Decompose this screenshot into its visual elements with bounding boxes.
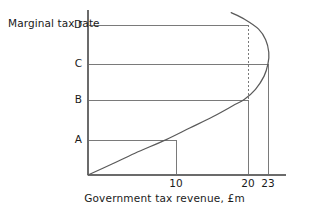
x-tick-label-23: 23 (256, 177, 280, 189)
y-tick-label-d: D (68, 18, 82, 30)
x-axis-title: Government tax revenue, £m (0, 192, 329, 204)
y-tick-label-c: C (68, 57, 82, 69)
y-tick-label-a: A (68, 133, 82, 145)
y-axis-title: Marginal tax rate (8, 17, 100, 29)
laffer-curve-figure: Marginal tax rate Government tax revenue… (0, 0, 329, 215)
y-tick-label-b: B (68, 93, 82, 105)
laffer-curve-path (88, 13, 269, 175)
x-tick-label-10: 10 (164, 177, 188, 189)
